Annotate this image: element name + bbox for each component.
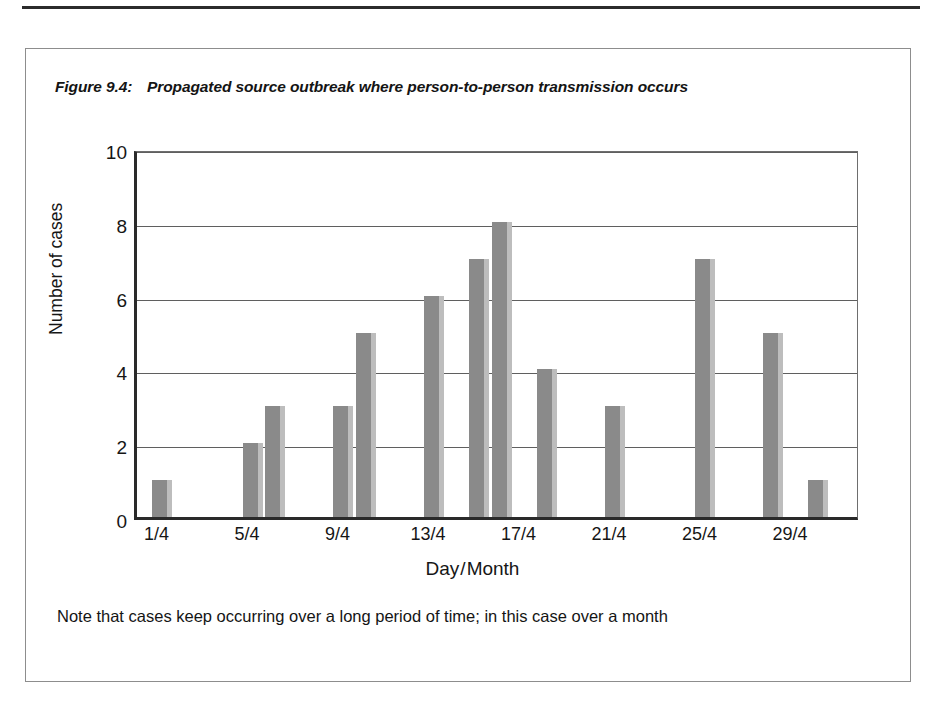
bar <box>763 333 783 518</box>
x-axis-tick-label: 25/4 <box>682 524 717 545</box>
bar <box>243 443 263 517</box>
y-axis-tick-label: 2 <box>116 438 127 457</box>
y-axis-title: Number of cases <box>46 203 67 335</box>
x-axis-tick-label: 5/4 <box>235 524 260 545</box>
x-axis-tick-label: 29/4 <box>773 524 808 545</box>
bar-series <box>137 152 857 517</box>
x-axis-tick-label: 1/4 <box>144 524 169 545</box>
x-axis-tick-label: 17/4 <box>501 524 536 545</box>
y-axis-tick-label: 8 <box>116 216 127 235</box>
bar <box>356 333 376 518</box>
bar <box>808 480 828 517</box>
bar <box>492 222 512 517</box>
bar <box>152 480 172 517</box>
y-axis-tick-label: 4 <box>116 364 127 383</box>
bar <box>424 296 444 517</box>
slash-glyph: / <box>459 558 466 580</box>
bar <box>695 259 715 517</box>
x-axis-title: Day/Month <box>0 558 945 580</box>
x-axis-title-text: Day/Month <box>426 558 520 579</box>
plot-area: 0246810 <box>134 151 858 520</box>
bar <box>265 406 285 517</box>
bar <box>605 406 625 517</box>
y-axis-tick-label: 10 <box>106 143 127 162</box>
y-axis-tick-label: 0 <box>116 512 127 531</box>
x-axis-tick-label: 13/4 <box>411 524 446 545</box>
bar <box>333 406 353 517</box>
figure-note: Note that cases keep occurring over a lo… <box>57 607 668 626</box>
x-axis-tick-label: 9/4 <box>325 524 350 545</box>
page-canvas: Figure 9.4:Propagated source outbreak wh… <box>0 0 945 725</box>
x-axis-tick-label: 21/4 <box>592 524 627 545</box>
bar <box>469 259 489 517</box>
bar <box>537 369 557 517</box>
y-axis-tick-label: 6 <box>116 290 127 309</box>
